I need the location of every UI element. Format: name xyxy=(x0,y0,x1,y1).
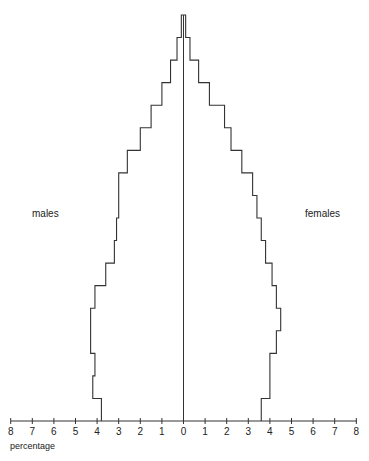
males-outline xyxy=(91,15,184,421)
x-tick-label: 8 xyxy=(354,426,360,437)
x-tick-label: 1 xyxy=(159,426,165,437)
x-tick-label: 4 xyxy=(94,426,100,437)
x-tick-label: 4 xyxy=(267,426,273,437)
females-label: females xyxy=(305,208,340,219)
x-tick-label: 5 xyxy=(289,426,295,437)
x-tick-label: 7 xyxy=(332,426,338,437)
males-label: males xyxy=(32,208,59,219)
x-tick-label: 2 xyxy=(138,426,144,437)
x-tick-label: 3 xyxy=(116,426,122,437)
x-tick-label: 5 xyxy=(73,426,79,437)
x-tick-label: 6 xyxy=(310,426,316,437)
x-tick-label: 0 xyxy=(181,426,187,437)
x-tick-label: 6 xyxy=(51,426,57,437)
females-outline xyxy=(184,15,281,421)
x-axis-label: percentage xyxy=(10,441,55,451)
x-tick-label: 3 xyxy=(246,426,252,437)
x-tick-label: 2 xyxy=(224,426,230,437)
x-tick-label: 8 xyxy=(8,426,14,437)
x-tick-label: 1 xyxy=(202,426,208,437)
population-pyramid-chart: 87654321012345678 xyxy=(0,0,369,461)
x-tick-label: 7 xyxy=(30,426,36,437)
